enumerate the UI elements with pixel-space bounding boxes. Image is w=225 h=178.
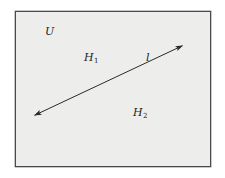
universe-label: U [45, 26, 54, 37]
line-l-label: l [146, 52, 150, 63]
line-l [0, 0, 225, 178]
double-arrow-line [35, 46, 183, 116]
half-plane-h1-label: H1 [84, 52, 99, 65]
half-plane-h2-label: H2 [133, 107, 148, 120]
